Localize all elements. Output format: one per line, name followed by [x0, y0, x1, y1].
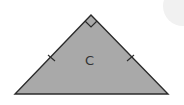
diagram-canvas: C	[0, 0, 184, 105]
triangle-label: C	[85, 53, 94, 68]
